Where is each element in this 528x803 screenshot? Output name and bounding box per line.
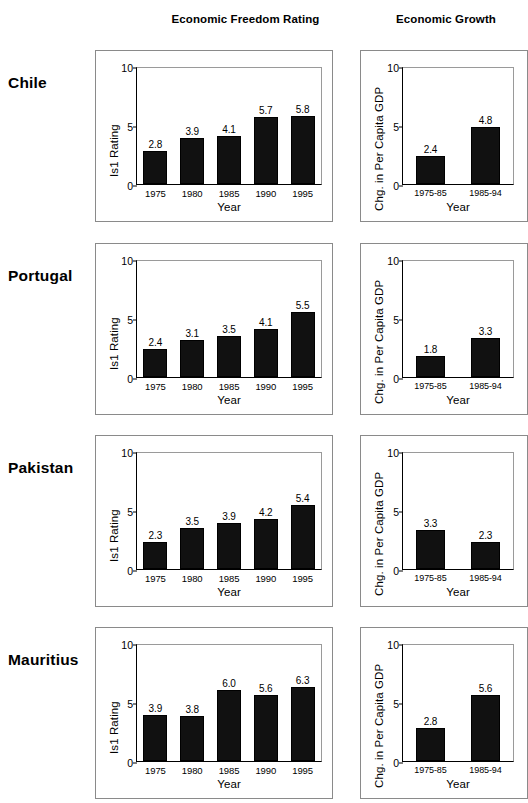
country-row: Pakistan051019752.319803.519853.919904.2… — [0, 435, 518, 615]
x-axis-tick-label: 1995 — [292, 573, 313, 584]
x-axis-tick-label: 1990 — [255, 765, 276, 776]
y-axis-tick-mark — [399, 512, 403, 513]
column-header-economic-growth: Economic Growth — [372, 13, 520, 25]
bar-value-label: 5.7 — [259, 105, 273, 116]
plot-area: 05101975-852.81985-945.6Year — [402, 644, 514, 762]
y-axis-tick-label: 0 — [393, 181, 399, 192]
y-axis-tick-label: 10 — [387, 448, 399, 459]
plot-area: 051019753.919803.819856.019905.619956.3Y… — [136, 644, 322, 762]
y-axis-tick-mark — [399, 571, 403, 572]
bar-value-label: 3.9 — [149, 703, 163, 714]
bar: 5.6 — [254, 695, 278, 761]
bar-value-label: 3.5 — [185, 516, 199, 527]
panel-economic-freedom-rating: 051019753.919803.819856.019905.619956.3Y… — [95, 627, 333, 799]
y-axis-tick-mark — [133, 127, 137, 128]
y-axis-title: Is1 Rating — [108, 317, 120, 370]
x-axis-tick-label: 1975-85 — [414, 765, 446, 775]
bar-value-label: 2.4 — [424, 144, 438, 155]
x-axis-title: Year — [403, 586, 513, 598]
country-label: Mauritius — [8, 651, 79, 669]
x-axis-tick-label: 1975-85 — [414, 188, 446, 198]
bar: 2.4 — [143, 349, 167, 377]
y-axis-tick-mark — [399, 763, 403, 764]
bar: 4.1 — [217, 136, 241, 184]
x-axis-tick-label: 1980 — [182, 765, 203, 776]
y-axis-tick-mark — [133, 68, 137, 69]
bar: 3.8 — [180, 716, 204, 761]
bar: 3.9 — [143, 715, 167, 761]
bar-value-label: 5.8 — [296, 104, 310, 115]
x-axis-tick-label: 1980 — [182, 381, 203, 392]
plot-area: 051019752.319803.519853.919904.219955.4Y… — [136, 452, 322, 570]
bar: 5.7 — [254, 117, 278, 184]
y-axis-tick-mark — [399, 704, 403, 705]
bar: 3.3 — [416, 530, 445, 569]
bar-value-label: 3.1 — [185, 328, 199, 339]
bar: 5.5 — [291, 312, 315, 377]
y-axis-tick-mark — [399, 379, 403, 380]
x-axis-title: Year — [403, 201, 513, 213]
bar: 2.3 — [143, 542, 167, 569]
y-axis-tick-mark — [133, 453, 137, 454]
x-axis-tick-label: 1975-85 — [414, 381, 446, 391]
panel-economic-freedom-rating: 051019752.819803.919854.119905.719955.8Y… — [95, 50, 333, 222]
bar-value-label: 2.3 — [149, 530, 163, 541]
y-axis-tick-label: 0 — [393, 374, 399, 385]
bar-value-label: 2.8 — [424, 716, 438, 727]
y-axis-title: Is1 Rating — [108, 701, 120, 754]
bar: 3.5 — [217, 336, 241, 377]
x-axis-tick-label: 1995 — [292, 188, 313, 199]
bar-value-label: 5.4 — [296, 493, 310, 504]
y-axis-tick-label: 5 — [127, 699, 133, 710]
x-axis-title: Year — [403, 394, 513, 406]
bar-value-label: 5.5 — [296, 300, 310, 311]
x-axis-tick-label: 1985 — [219, 765, 240, 776]
bar: 4.1 — [254, 329, 278, 377]
y-axis-tick-label: 10 — [121, 640, 133, 651]
panel-economic-growth: 05101975-853.31985-942.3YearChg. in Per … — [360, 435, 528, 607]
plot-area: 05101975-851.81985-943.3Year — [402, 260, 514, 378]
bar-value-label: 4.1 — [259, 317, 273, 328]
bar: 2.3 — [471, 542, 500, 569]
x-axis-tick-label: 1995 — [292, 765, 313, 776]
x-axis-tick-label: 1975 — [145, 765, 166, 776]
y-axis-tick-mark — [133, 320, 137, 321]
x-axis-title: Year — [403, 778, 513, 790]
country-row: Mauritius051019753.919803.819856.019905.… — [0, 627, 518, 803]
panel-economic-freedom-rating: 051019752.319803.519853.919904.219955.4Y… — [95, 435, 333, 607]
y-axis-title: Is1 Rating — [108, 124, 120, 177]
plot-area: 051019752.419803.119853.519904.119955.5Y… — [136, 260, 322, 378]
bar: 6.3 — [291, 687, 315, 761]
y-axis-tick-mark — [399, 645, 403, 646]
bar-value-label: 3.3 — [479, 326, 493, 337]
y-axis-tick-mark — [133, 704, 137, 705]
x-axis-tick-label: 1975 — [145, 188, 166, 199]
x-axis-tick-label: 1985 — [219, 188, 240, 199]
x-axis-tick-label: 1975 — [145, 381, 166, 392]
y-axis-tick-label: 0 — [393, 758, 399, 769]
bar-value-label: 5.6 — [479, 683, 493, 694]
y-axis-tick-mark — [133, 763, 137, 764]
x-axis-tick-label: 1985 — [219, 381, 240, 392]
bar: 4.2 — [254, 519, 278, 569]
bar: 5.4 — [291, 505, 315, 569]
y-axis-tick-label: 10 — [121, 256, 133, 267]
bar: 5.8 — [291, 116, 315, 184]
y-axis-tick-label: 5 — [393, 315, 399, 326]
bar: 6.0 — [217, 690, 241, 761]
y-axis-title: Chg. in Per Capita GDP — [373, 87, 385, 211]
y-axis-tick-mark — [133, 512, 137, 513]
y-axis-tick-mark — [399, 320, 403, 321]
y-axis-tick-label: 0 — [127, 758, 133, 769]
plot-area: 051019752.819803.919854.119905.719955.8Y… — [136, 67, 322, 185]
bar-value-label: 2.8 — [149, 139, 163, 150]
y-axis-tick-label: 0 — [127, 566, 133, 577]
bar-value-label: 3.8 — [185, 704, 199, 715]
bar-value-label: 4.1 — [222, 124, 236, 135]
bar-value-label: 1.8 — [424, 344, 438, 355]
y-axis-tick-mark — [133, 571, 137, 572]
plot-area: 05101975-853.31985-942.3Year — [402, 452, 514, 570]
x-axis-tick-label: 1990 — [255, 573, 276, 584]
y-axis-tick-label: 10 — [121, 448, 133, 459]
